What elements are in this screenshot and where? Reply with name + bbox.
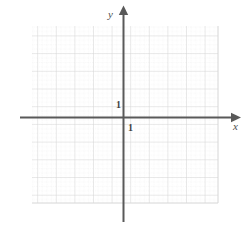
y-axis-arrow-icon — [119, 6, 128, 16]
x-axis-label: x — [233, 121, 238, 132]
y-axis-unit-tick-label: 1 — [116, 100, 121, 110]
grid-area — [32, 26, 218, 203]
y-axis-label: y — [108, 9, 113, 20]
coordinate-plane-svg — [0, 0, 248, 230]
coordinate-grid-figure: y x 1 1 — [0, 0, 248, 230]
x-axis-unit-tick-label: 1 — [128, 123, 133, 133]
grid-fill — [32, 26, 218, 203]
